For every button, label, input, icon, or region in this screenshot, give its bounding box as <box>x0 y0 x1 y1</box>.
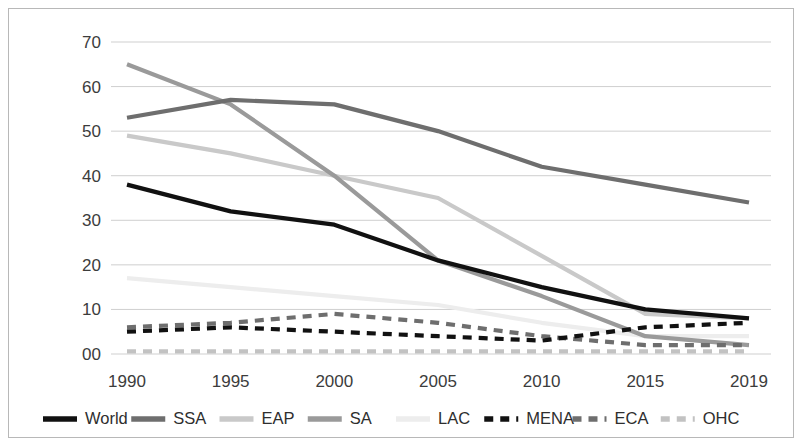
x-axis-tick-labels: 1990199520002005201020152019 <box>108 372 768 391</box>
y-axis-tick-label: 60 <box>82 78 101 97</box>
y-axis-tick-label: 10 <box>82 300 101 319</box>
series-line-eca <box>127 314 749 345</box>
y-axis-tick-label: 40 <box>82 167 101 186</box>
legend-label-world: World <box>85 409 128 427</box>
y-axis-tick-labels: 0010203040506070 <box>82 33 101 364</box>
x-axis-tick-label: 2019 <box>730 372 768 391</box>
y-axis-tick-label: 30 <box>82 211 101 230</box>
y-axis-tick-label: 20 <box>82 256 101 275</box>
legend-label-ohc: OHC <box>703 409 740 427</box>
series-line-eap <box>127 136 749 319</box>
x-axis-tick-label: 2005 <box>419 372 457 391</box>
legend-label-ssa: SSA <box>173 409 206 427</box>
x-axis-tick-label: 1990 <box>108 372 146 391</box>
x-axis-tick-label: 2010 <box>523 372 561 391</box>
legend-label-mena: MENA <box>526 409 574 427</box>
legend-label-sa: SA <box>350 409 372 427</box>
legend-label-eap: EAP <box>262 409 295 427</box>
line-chart: 0010203040506070 19901995200020052010201… <box>9 9 795 439</box>
chart-frame: 0010203040506070 19901995200020052010201… <box>8 8 794 438</box>
x-axis-tick-label: 1995 <box>212 372 250 391</box>
x-axis-tick-label: 2000 <box>315 372 353 391</box>
series-lines <box>127 64 749 351</box>
y-axis-tick-label: 50 <box>82 122 101 141</box>
legend-label-lac: LAC <box>438 409 470 427</box>
series-line-world <box>127 185 749 319</box>
x-axis-tick-label: 2015 <box>626 372 664 391</box>
y-axis-tick-label: 00 <box>82 345 101 364</box>
legend-label-eca: ECA <box>615 409 649 427</box>
y-axis-tick-label: 70 <box>82 33 101 52</box>
chart-legend: WorldSSAEAPSALACMENAECAOHC <box>43 409 740 427</box>
